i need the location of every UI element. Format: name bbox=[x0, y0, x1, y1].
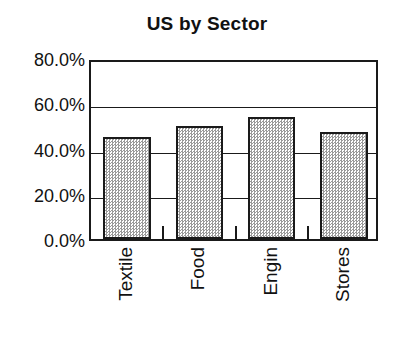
plot-area bbox=[89, 60, 378, 241]
gridline bbox=[91, 107, 376, 108]
chart-figure: US by Sector 80.0%60.0%40.0%20.0%0.0% Te… bbox=[0, 0, 414, 345]
y-axis-tick-labels: 80.0%60.0%40.0%20.0%0.0% bbox=[0, 0, 85, 345]
x-axis-tick bbox=[162, 226, 164, 239]
x-axis-category-label: Stores bbox=[332, 247, 351, 302]
x-axis-label-slot: Textile bbox=[89, 243, 161, 343]
x-axis-label-slot: Food bbox=[161, 243, 233, 343]
y-axis-tick-label: 20.0% bbox=[5, 187, 85, 205]
bar bbox=[248, 117, 295, 239]
bar bbox=[320, 132, 367, 239]
x-axis-category-label: Textile bbox=[116, 247, 135, 301]
x-axis-category-labels: TextileFoodEnginStores bbox=[89, 243, 378, 343]
bar bbox=[103, 137, 150, 239]
x-axis-category-label: Engin bbox=[260, 247, 279, 296]
y-axis-tick-label: 0.0% bbox=[5, 232, 85, 250]
y-axis-tick-label: 80.0% bbox=[5, 51, 85, 69]
x-axis-category-label: Food bbox=[188, 247, 207, 290]
x-axis-label-slot: Stores bbox=[306, 243, 378, 343]
x-axis-tick bbox=[235, 226, 237, 239]
x-axis-label-slot: Engin bbox=[234, 243, 306, 343]
x-axis-tick bbox=[307, 226, 309, 239]
y-axis-tick-label: 40.0% bbox=[5, 142, 85, 160]
bar bbox=[176, 126, 223, 239]
y-axis-tick-label: 60.0% bbox=[5, 96, 85, 114]
